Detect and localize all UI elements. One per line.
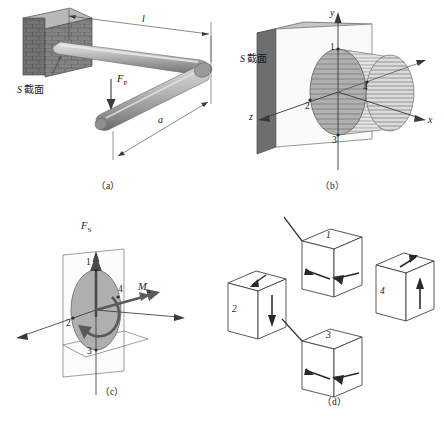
cylinder-end-hatch xyxy=(366,55,414,131)
panel-d-stress-elements: 1 2 3 4 xyxy=(222,205,444,423)
stress-cube-3 xyxy=(282,319,362,397)
point-3-marker xyxy=(95,349,98,352)
panel-c-point-2-label: 2 xyxy=(66,319,71,329)
panel-a-section-label: S截面 xyxy=(17,85,44,95)
caption-d: （d） xyxy=(322,394,347,408)
panel-d-cube-2-label: 2 xyxy=(232,305,237,315)
panel-b-point-4-label: 4 xyxy=(363,83,368,93)
panel-b-section-axes: S截面 y x z 1 2 3 4 xyxy=(222,0,444,205)
panel-c-point-4-label: 4 xyxy=(118,285,123,295)
axis-y-arrowhead xyxy=(334,12,341,23)
panel-a-length-a: a xyxy=(158,115,163,125)
panel-a-drawing xyxy=(0,0,222,205)
axis-x-arrowhead xyxy=(414,115,426,122)
panel-c-shear-force-label: FS xyxy=(81,221,91,234)
panel-b-axis-x-label: x xyxy=(428,115,432,125)
stress-cube-1 xyxy=(284,217,362,297)
cube-3-leader-line xyxy=(282,319,302,341)
panel-b-section-word: 截面 xyxy=(247,53,267,64)
panel-c-point-3-label: 3 xyxy=(87,347,92,357)
panel-c-point-1-label: 1 xyxy=(86,258,91,268)
dim-a-arrow-top xyxy=(201,102,208,107)
rod-lower-arm xyxy=(96,66,209,131)
dim-l-arrow-right xyxy=(202,32,209,36)
axis-z-arrowhead xyxy=(16,333,28,340)
panel-a-section-symbol: S xyxy=(17,84,22,95)
panel-b-drawing xyxy=(222,0,444,205)
cube-1-leader-line xyxy=(284,217,302,241)
plate-side-face xyxy=(257,29,276,154)
panel-c-torque-symbol: M xyxy=(138,281,147,292)
point-4-marker xyxy=(117,296,120,299)
caption-c: （c） xyxy=(100,384,124,398)
panel-b-axis-y-label: y xyxy=(330,8,334,18)
panel-d-cube-1-label: 1 xyxy=(326,231,331,241)
panel-c-torque-label: Mx xyxy=(138,282,150,295)
panel-b-point-2-label: 2 xyxy=(305,102,310,112)
section-leader-dot xyxy=(59,56,61,58)
panel-b-point-1-label: 1 xyxy=(330,43,335,53)
panel-b-point-3-label: 3 xyxy=(332,136,337,146)
panel-d-cube-3-label: 3 xyxy=(326,331,331,341)
dim-a-arrow-bottom xyxy=(118,151,125,156)
point-2-marker xyxy=(72,317,75,320)
panel-a-force-label: FP xyxy=(117,74,127,87)
panel-a-force-subscript: P xyxy=(123,79,127,87)
panel-c-torque-subscript: x xyxy=(147,287,151,295)
panel-b-axis-z-label: z xyxy=(249,112,253,122)
wall-left-shade xyxy=(23,18,45,75)
mechanics-figure: S截面 l a FP xyxy=(0,0,444,423)
caption-b: （b） xyxy=(320,178,345,192)
point-1-marker xyxy=(336,47,339,50)
panel-b-section-symbol: S xyxy=(240,53,245,64)
axis-x-arrowhead xyxy=(174,314,185,321)
caption-a: （a） xyxy=(96,178,120,192)
axis-oblique-arrowhead xyxy=(416,60,426,66)
panel-a-section-word: 截面 xyxy=(24,84,44,95)
panel-a-length-l: l xyxy=(142,14,145,24)
panel-d-drawing xyxy=(222,205,444,423)
panel-d-cube-4-label: 4 xyxy=(380,287,385,297)
point-1-marker xyxy=(95,269,98,272)
panel-b-section-label: S截面 xyxy=(240,54,267,64)
panel-a-cantilever: S截面 l a FP xyxy=(0,0,222,205)
panel-c-shear-force-subscript: S xyxy=(87,226,91,234)
